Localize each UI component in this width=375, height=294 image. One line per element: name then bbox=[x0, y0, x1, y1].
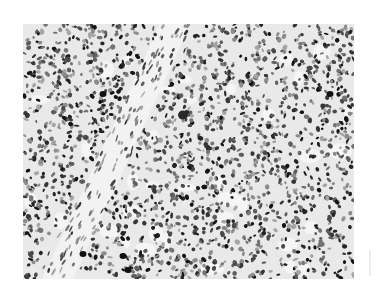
histology-micrograph bbox=[23, 24, 354, 279]
tissue-texture bbox=[23, 24, 354, 279]
edge-artifact bbox=[369, 250, 371, 276]
